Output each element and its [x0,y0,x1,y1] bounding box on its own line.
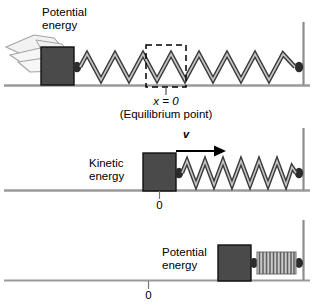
velocity-symbol: v [176,128,196,141]
velocity-symbol-text: v [183,128,189,140]
panel-compressed-origin-text: 0 [145,289,151,301]
equilibrium-caption-text: (Equilibrium point) [120,108,213,120]
block [218,245,251,281]
spring-stretched [80,54,295,80]
velocity-arrow-icon [176,146,226,157]
spring-compressed [257,252,296,274]
panel-compressed: Potential energy 0 [0,218,314,307]
panel-moving-origin-label: 0 [147,199,172,212]
block [41,47,74,85]
panel-moving: Kinetic energy v 0 [0,125,314,215]
panel-moving-energy-label: Kinetic energy [89,157,124,183]
panel-moving-origin-text: 0 [156,199,162,211]
panel-compressed-origin-label: 0 [136,289,161,302]
panel-stretched-energy-label: Potential energy [42,6,87,32]
equilibrium-x-label: x = 0 [116,95,216,108]
spring-relaxed [182,161,296,185]
equilibrium-x-text: x = 0 [153,95,178,107]
spring-nub-right [295,62,303,72]
equilibrium-caption: (Equilibrium point) [96,108,236,121]
panel-stretched: Potential energy x = 0 (Equilibrium poin… [0,0,314,120]
block [143,153,176,191]
panel-compressed-energy-label: Potential energy [162,246,207,272]
spring-energy-figure: Potential energy x = 0 (Equilibrium poin… [0,0,314,307]
